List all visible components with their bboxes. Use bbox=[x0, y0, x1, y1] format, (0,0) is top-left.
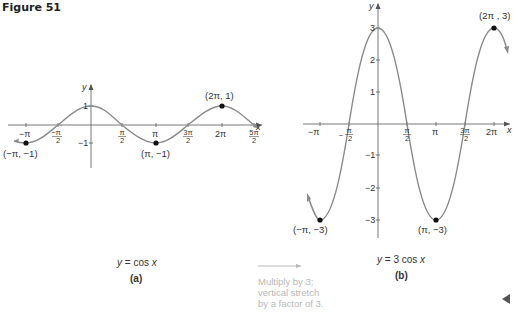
svg-text:2: 2 bbox=[464, 134, 468, 143]
panel-a-xtick-pi: π bbox=[152, 129, 158, 139]
panel-b-point-pi bbox=[433, 217, 438, 222]
panel-b-ytick-1: 1 bbox=[370, 87, 375, 97]
transition-arrow-head-icon bbox=[296, 264, 302, 268]
transition-note-line: by a factor of 3. bbox=[258, 298, 323, 309]
panel-b-ytick-neg2: −2 bbox=[365, 183, 375, 193]
panel-b-xtick-2pi: 2π bbox=[486, 127, 497, 137]
panel-a-ytick-neg1: −1 bbox=[78, 138, 88, 148]
panel-b-label: (b) bbox=[395, 270, 408, 281]
panel-b-ytick-2: 2 bbox=[370, 55, 375, 65]
panel-b-ytick-neg1: −1 bbox=[365, 150, 375, 160]
panel-b-y-label: y bbox=[368, 1, 374, 11]
panel-b-fraction-ticks: π2− π2 3π2 bbox=[339, 126, 470, 143]
panel-b-y-arrow-icon bbox=[376, 3, 381, 9]
panel-b-point-neg-pi bbox=[317, 217, 322, 222]
panel-b-point-label-pi: (π, −3) bbox=[418, 224, 447, 235]
svg-text:2: 2 bbox=[186, 136, 190, 145]
svg-text:2: 2 bbox=[348, 134, 352, 143]
svg-text:−: − bbox=[339, 131, 344, 140]
panel-a-label: (a) bbox=[130, 273, 142, 284]
svg-text:2: 2 bbox=[56, 136, 60, 145]
panel-a-point-label-2pi: (2π, 1) bbox=[205, 90, 234, 101]
panel-a-point-label-pi: (π, −1) bbox=[141, 148, 170, 159]
panel-b-equation: y = 3 cos x bbox=[377, 254, 425, 265]
panel-a-equation: y = cos x bbox=[117, 257, 157, 268]
panel-a-y-arrow-icon bbox=[89, 84, 94, 90]
previous-page-arrow-icon[interactable] bbox=[502, 294, 510, 304]
svg-text:2: 2 bbox=[120, 136, 124, 145]
panel-a-point-neg-pi bbox=[23, 140, 28, 145]
panel-b-ytick-neg3: −3 bbox=[365, 215, 375, 225]
panel-b-point-label-neg-pi: (−π, −3) bbox=[293, 224, 328, 235]
panel-b-curve-end-arrow-icon bbox=[504, 46, 509, 54]
panel-b-ytick-3: 3 bbox=[370, 23, 375, 33]
svg-text:2: 2 bbox=[252, 136, 256, 145]
panel-b-point-2pi bbox=[491, 25, 496, 30]
svg-text:2: 2 bbox=[405, 134, 409, 143]
panel-a-point-label-neg-pi: (−π, −1) bbox=[3, 148, 38, 159]
panel-b-xtick-pi: π bbox=[432, 127, 438, 137]
panel-a-xtick-2pi: 2π bbox=[215, 129, 226, 139]
panel-a-point-2pi bbox=[219, 103, 224, 108]
panel-b-xtick-neg-pi: −π bbox=[308, 127, 319, 137]
panel-b-x-label: x bbox=[506, 125, 512, 135]
panel-a-ytick-1: 1 bbox=[83, 101, 88, 111]
panel-a-point-pi bbox=[153, 140, 158, 145]
panel-b-point-label-2pi: (2π , 3) bbox=[479, 10, 510, 21]
panel-a-xtick-neg-pi: −π bbox=[19, 129, 30, 139]
chart-panel-a: y x 1 −1 −π 2π π −π2 π2 3π2 5π2 (−π, −1)… bbox=[0, 0, 513, 312]
transition-note-line: vertical stretch bbox=[258, 287, 323, 298]
transition-note-line: Multiply by 3; bbox=[258, 276, 323, 287]
transition-note: Multiply by 3; vertical stretch by a fac… bbox=[258, 276, 323, 309]
panel-a-y-label: y bbox=[81, 82, 87, 92]
